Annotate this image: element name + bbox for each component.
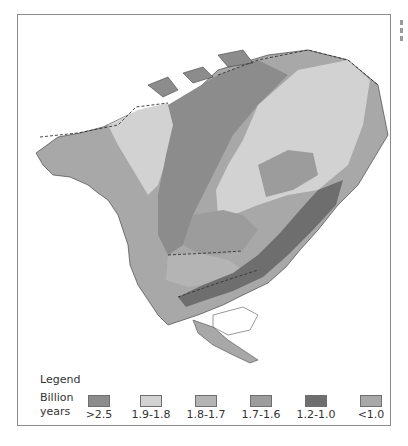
legend-swatch [88,395,110,407]
legend-label: 1.2-1.0 [289,408,343,421]
edge-artifact [400,28,403,33]
legend-unit-line1: Billion [40,391,73,404]
map-figure: Legend Billion years >2.5 1.9-1.8 1.8-1.… [17,14,391,426]
legend-item: 1.9-1.8 [124,395,178,421]
legend-item: >2.5 [72,395,126,421]
legend-unit: Billion years [40,391,73,419]
gulf-of-mexico [213,307,258,335]
legend-swatch [140,395,162,407]
legend-unit-line2: years [40,405,70,418]
north-america-age-map [18,15,390,365]
legend-swatch [305,395,327,407]
legend-label: <1.0 [344,408,398,421]
legend-label: 1.7-1.6 [234,408,288,421]
legend-item: <1.0 [344,395,398,421]
legend: Legend Billion years >2.5 1.9-1.8 1.8-1.… [40,373,380,423]
legend-title: Legend [40,373,80,386]
legend-item: 1.7-1.6 [234,395,288,421]
legend-item: 1.2-1.0 [289,395,343,421]
legend-item: 1.8-1.7 [179,395,233,421]
legend-label: 1.8-1.7 [179,408,233,421]
edge-artifact [400,20,403,25]
legend-label: >2.5 [72,408,126,421]
legend-swatch [195,395,217,407]
edge-artifact [400,36,403,41]
legend-swatch [360,395,382,407]
legend-swatch [250,395,272,407]
legend-label: 1.9-1.8 [124,408,178,421]
